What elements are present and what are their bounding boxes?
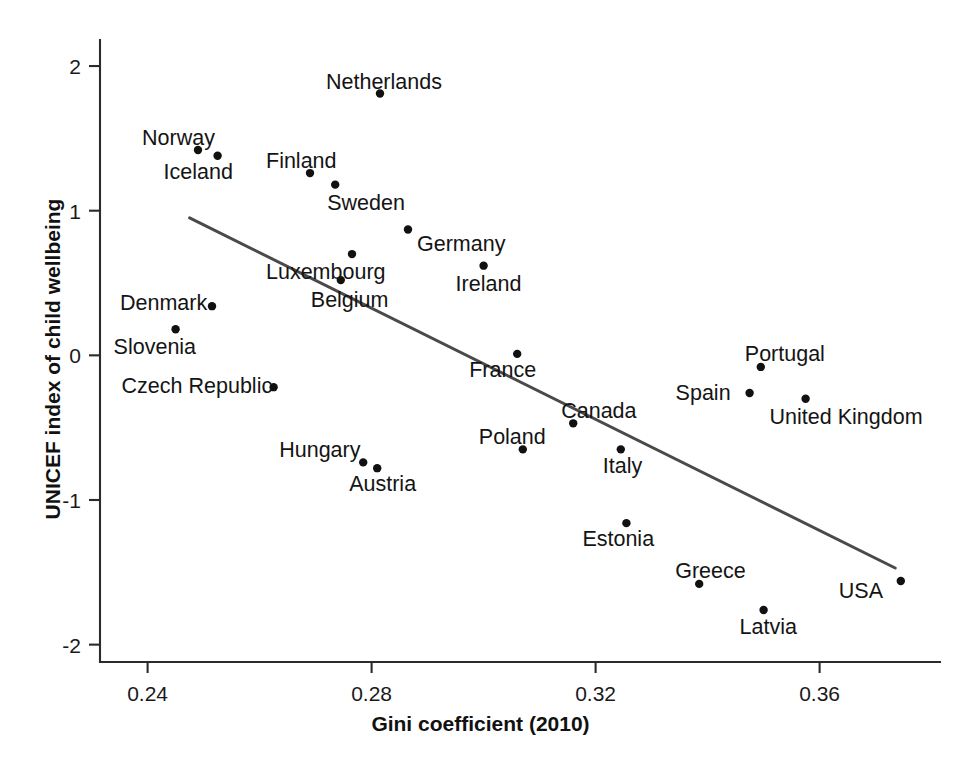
point-label: Finland (266, 151, 337, 173)
data-point (513, 350, 521, 358)
point-label: USA (839, 581, 883, 603)
data-point (331, 180, 339, 188)
point-label: Spain (676, 383, 731, 405)
x-tick-label: 0.32 (575, 683, 616, 704)
point-label: Czech Republic (122, 376, 273, 398)
y-tick-label: 2 (69, 56, 81, 77)
point-label: Ireland (456, 274, 522, 296)
scatter-chart: 0.240.280.320.36 210-1-2 NetherlandsNorw… (0, 0, 961, 764)
point-label: Italy (603, 456, 642, 478)
point-label: Greece (675, 561, 746, 583)
x-tick-label: 0.28 (351, 683, 392, 704)
point-label: Canada (561, 401, 636, 423)
data-point (404, 225, 412, 233)
data-point (622, 519, 630, 527)
point-label: France (469, 360, 536, 382)
point-label: Estonia (582, 529, 654, 551)
data-point (213, 152, 221, 160)
data-point (171, 325, 179, 333)
y-tick-label: 1 (69, 200, 81, 221)
data-point (479, 261, 487, 269)
data-point (348, 250, 356, 258)
point-label: United Kingdom (770, 407, 923, 429)
point-label: Luxembourg (266, 262, 386, 284)
data-point (208, 302, 216, 310)
point-label: Netherlands (326, 72, 442, 94)
point-label: Portugal (745, 344, 825, 366)
y-tick-label: -1 (62, 489, 81, 510)
point-label: Iceland (164, 162, 233, 184)
data-point (759, 606, 767, 614)
point-label: Slovenia (114, 337, 196, 359)
data-point (745, 389, 753, 397)
point-label: Hungary (279, 440, 360, 462)
data-point (801, 395, 809, 403)
point-label: Austria (349, 474, 416, 496)
point-label: Norway (142, 128, 215, 150)
x-axis-title: Gini coefficient (2010) (0, 712, 961, 736)
point-label: Denmark (120, 293, 207, 315)
point-label: Latvia (740, 617, 797, 639)
point-label: Poland (479, 427, 546, 449)
point-label: Sweden (327, 193, 405, 215)
point-label: Belgium (311, 290, 389, 312)
y-axis-title: UNICEF index of child wellbeing (41, 144, 65, 574)
data-point (373, 464, 381, 472)
data-point (897, 577, 905, 585)
y-tick-label: -2 (62, 634, 81, 655)
point-label: Germany (417, 234, 505, 256)
data-point (617, 445, 625, 453)
x-tick-label: 0.36 (799, 683, 840, 704)
y-tick-label: 0 (69, 345, 81, 366)
x-tick-label: 0.24 (127, 683, 168, 704)
